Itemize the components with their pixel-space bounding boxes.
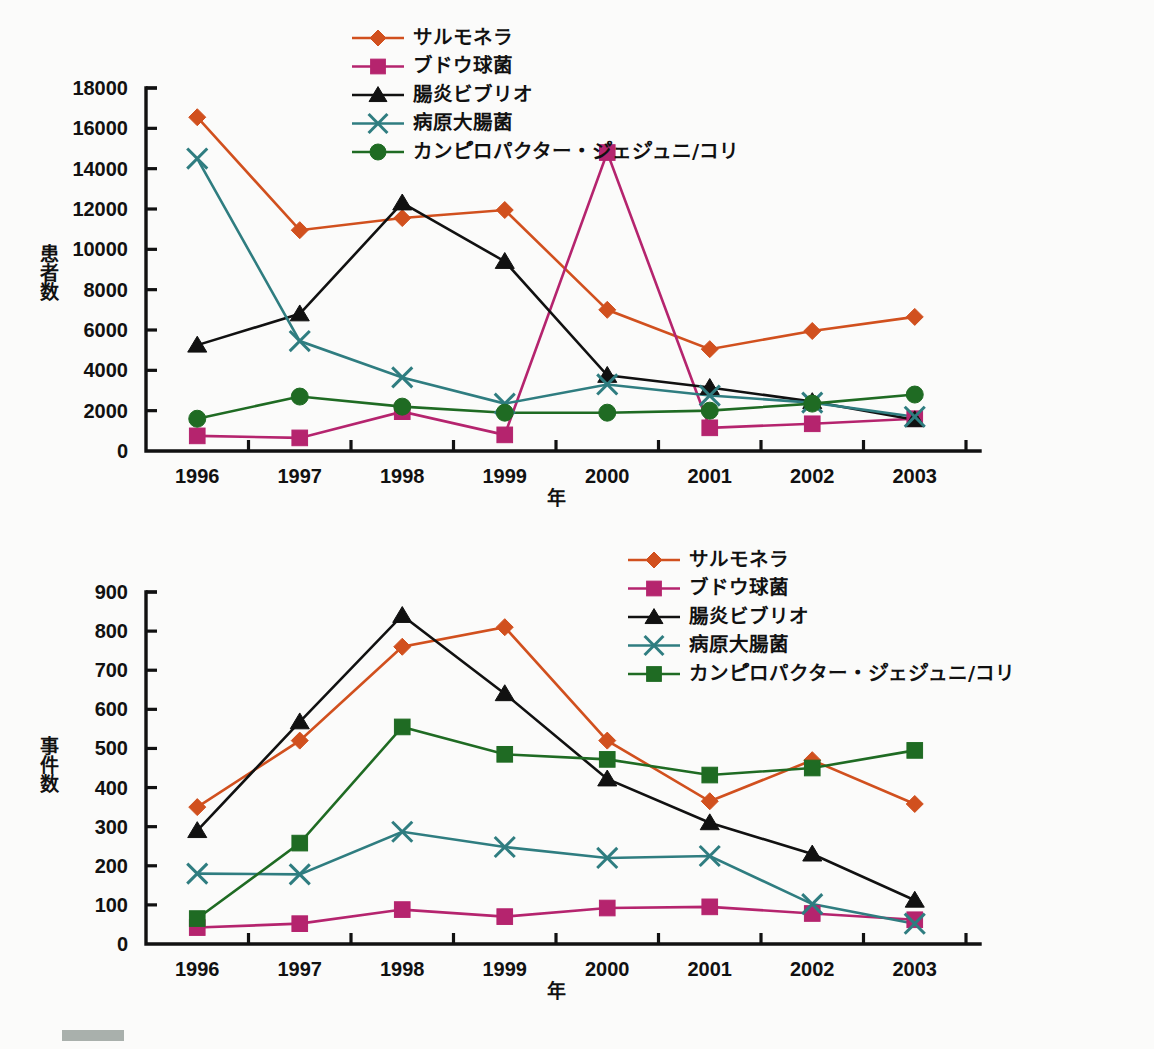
x-axis-tick-label: 1997 <box>278 465 323 487</box>
y-axis-tick-label: 300 <box>95 816 128 838</box>
legend-label: カンピ゚ロパクター・ジ゚ェジ゚ュニ/コリ <box>413 140 739 163</box>
y-axis-title: 患者数 <box>37 243 59 302</box>
legend-item-4[interactable]: 病原大腸菌 <box>628 633 789 656</box>
legend-label: サルモネラ <box>413 26 513 49</box>
legend-label: サルモネラ <box>689 548 789 571</box>
marker-diamond <box>701 341 718 358</box>
series-markers-4 <box>187 149 925 427</box>
y-axis-tick-label: 0 <box>117 933 128 955</box>
marker-circle <box>906 386 923 403</box>
legend-item-4[interactable]: 病原大腸菌 <box>352 111 513 134</box>
marker-diamond <box>370 30 386 46</box>
x-axis-tick-label: 2001 <box>688 465 733 487</box>
x-axis-tick-label: 2003 <box>893 465 938 487</box>
y-axis-tick-label: 700 <box>95 659 128 681</box>
marker-square <box>394 902 410 918</box>
marker-circle <box>394 398 411 415</box>
y-axis-tick-label: 10000 <box>72 238 128 260</box>
y-axis-tick-label: 18000 <box>72 77 128 99</box>
legend-item-2[interactable]: ブドウ球菌 <box>628 576 789 599</box>
legend-label: 腸炎ビブリオ <box>413 83 533 106</box>
y-axis-tick-label: 14000 <box>72 158 128 180</box>
marker-diamond <box>394 210 411 227</box>
marker-square <box>647 581 662 596</box>
legend-label: 病原大腸菌 <box>689 633 789 656</box>
gray-marker-block <box>62 1030 124 1041</box>
chart-patients: 0200040006000800010000120001400016000180… <box>0 0 1154 524</box>
x-axis-tick-label: 1998 <box>380 465 425 487</box>
series-line-4 <box>197 159 915 417</box>
legend-label: ブドウ球菌 <box>413 54 513 77</box>
x-axis-tick-label: 2000 <box>585 958 630 980</box>
y-axis-tick-label: 2000 <box>84 400 129 422</box>
marker-triangle <box>905 891 924 907</box>
legend-item-1[interactable]: サルモネラ <box>352 26 513 49</box>
marker-square <box>647 667 662 682</box>
series-line-3 <box>197 203 915 420</box>
marker-square <box>497 909 513 925</box>
marker-triangle <box>393 607 412 623</box>
y-axis-tick-label: 600 <box>95 698 128 720</box>
marker-circle <box>804 395 821 412</box>
legend-item-3[interactable]: 腸炎ビブリオ <box>352 83 533 106</box>
legend-label: 腸炎ビブリオ <box>689 605 809 628</box>
marker-square <box>189 911 205 927</box>
y-axis-tick-label: 0 <box>117 440 128 462</box>
legend-label: 病原大腸菌 <box>413 111 513 134</box>
legend-label: ブドウ球菌 <box>689 576 789 599</box>
legend-label: カンピ゚ロパクター・ジ゚ェジ゚ュニ/コリ <box>689 662 1015 685</box>
x-axis-tick-label: 1996 <box>175 465 220 487</box>
y-axis-tick-label: 12000 <box>72 198 128 220</box>
x-axis-tick-label: 1998 <box>380 958 425 980</box>
marker-diamond <box>189 799 206 816</box>
x-axis-tick-label: 2001 <box>688 958 733 980</box>
marker-circle <box>189 410 206 427</box>
x-axis-tick-label: 2000 <box>585 465 630 487</box>
legend-item-3[interactable]: 腸炎ビブリオ <box>628 605 809 628</box>
x-axis-tick-label: 1999 <box>483 958 528 980</box>
marker-square <box>189 428 205 444</box>
y-axis-tick-label: 900 <box>95 581 128 603</box>
y-axis-tick-label: 200 <box>95 855 128 877</box>
marker-circle <box>599 404 616 421</box>
figure-page: 0200040006000800010000120001400016000180… <box>0 0 1154 1049</box>
legend-item-5[interactable]: カンピ゚ロパクター・ジ゚ェジ゚ュニ/コリ <box>352 140 739 163</box>
marker-square <box>599 752 615 768</box>
y-axis-tick-label: 6000 <box>84 319 129 341</box>
marker-circle <box>701 402 718 419</box>
series-markers-5 <box>189 719 922 926</box>
legend-item-2[interactable]: ブドウ球菌 <box>352 54 513 77</box>
y-axis-title: 事件数 <box>37 735 59 794</box>
marker-diamond <box>701 793 718 810</box>
marker-diamond <box>646 552 662 568</box>
marker-square <box>907 743 923 759</box>
marker-circle <box>370 144 386 160</box>
x-axis-tick-label: 1999 <box>483 465 528 487</box>
marker-triangle <box>495 253 514 269</box>
marker-square <box>804 760 820 776</box>
marker-diamond <box>906 308 923 325</box>
marker-circle <box>496 404 513 421</box>
marker-square <box>292 430 308 446</box>
x-axis-tick-label: 1997 <box>278 958 323 980</box>
marker-square <box>702 899 718 915</box>
marker-square <box>394 719 410 735</box>
legend-item-1[interactable]: サルモネラ <box>628 548 789 571</box>
marker-circle <box>291 388 308 405</box>
x-axis-title: 年 <box>547 487 566 509</box>
marker-square <box>702 420 718 436</box>
marker-triangle <box>700 814 719 830</box>
y-axis-tick-label: 8000 <box>84 279 129 301</box>
axis-frame <box>146 592 980 944</box>
legend-item-5[interactable]: カンピ゚ロパクター・ジ゚ェジ゚ュニ/コリ <box>628 662 1015 685</box>
x-axis-tick-label: 2002 <box>790 465 835 487</box>
marker-cross <box>392 367 412 387</box>
chart-patients-svg: 0200040006000800010000120001400016000180… <box>0 0 1154 524</box>
marker-square <box>292 835 308 851</box>
marker-square <box>497 746 513 762</box>
marker-square <box>804 416 820 432</box>
marker-triangle <box>393 194 412 210</box>
y-axis-tick-label: 16000 <box>72 117 128 139</box>
y-axis-tick-label: 100 <box>95 894 128 916</box>
y-axis-tick-label: 400 <box>95 777 128 799</box>
